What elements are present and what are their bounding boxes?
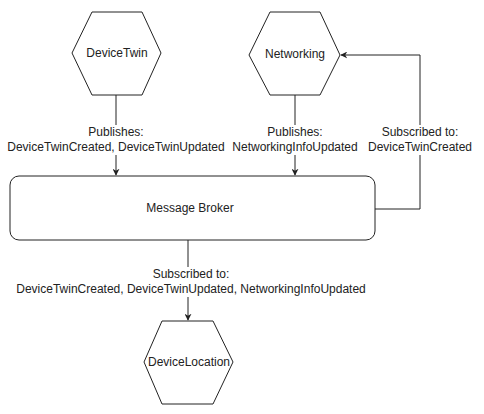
edge-label-line: Subscribed to:	[368, 125, 472, 140]
edge-label-networking-publishes: Publishes: NetworkingInfoUpdated	[232, 125, 357, 155]
networking-label: Networking	[265, 47, 325, 62]
edge-label-line: DeviceTwinCreated	[368, 140, 472, 155]
edge-label-line: DeviceTwinCreated, DeviceTwinUpdated, Ne…	[16, 282, 366, 297]
edge-label-line: NetworkingInfoUpdated	[232, 140, 357, 155]
edge-label-line: Subscribed to:	[16, 267, 366, 282]
device-location-label: DeviceLocation	[148, 355, 230, 370]
device-twin-label: DeviceTwin	[86, 46, 147, 61]
edge-label-device-twin-publishes: Publishes: DeviceTwinCreated, DeviceTwin…	[7, 125, 224, 155]
edge-label-device-location-subscribed: Subscribed to: DeviceTwinCreated, Device…	[16, 267, 366, 297]
edge-label-line: Publishes:	[7, 125, 224, 140]
diagram-canvas	[0, 0, 484, 414]
edge-label-networking-subscribed: Subscribed to: DeviceTwinCreated	[368, 125, 472, 155]
edge-label-line: DeviceTwinCreated, DeviceTwinUpdated	[7, 140, 224, 155]
message-broker-label: Message Broker	[146, 201, 233, 216]
edge-label-line: Publishes:	[232, 125, 357, 140]
